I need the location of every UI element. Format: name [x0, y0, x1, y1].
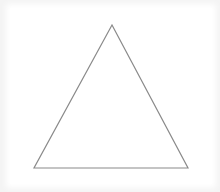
triangle-shape: [34, 25, 188, 168]
triangle-diagram: [0, 0, 220, 192]
